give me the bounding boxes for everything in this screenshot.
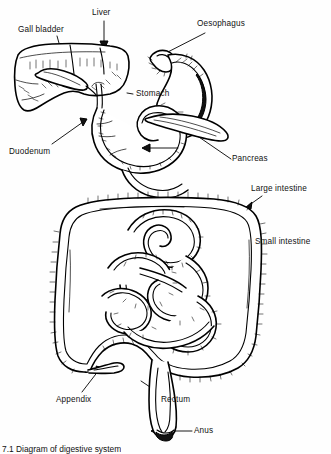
label-rectum: Rectum	[161, 395, 190, 404]
label-small-intestine: Small intestine	[255, 237, 311, 246]
label-oesophagus: Oesophagus	[197, 19, 245, 28]
label-large-intestine: Large intestine	[251, 184, 307, 193]
label-stomach: Stomach	[136, 89, 169, 98]
label-gall-bladder: Gall bladder	[18, 25, 64, 34]
label-pancreas: Pancreas	[232, 154, 268, 163]
label-liver: Liver	[92, 8, 111, 17]
label-anus: Anus	[194, 426, 213, 435]
label-appendix: Appendix	[56, 395, 91, 404]
figure-caption: 7.1 Diagram of digestive system	[2, 444, 121, 454]
label-duodenum: Duodenum	[9, 147, 50, 156]
